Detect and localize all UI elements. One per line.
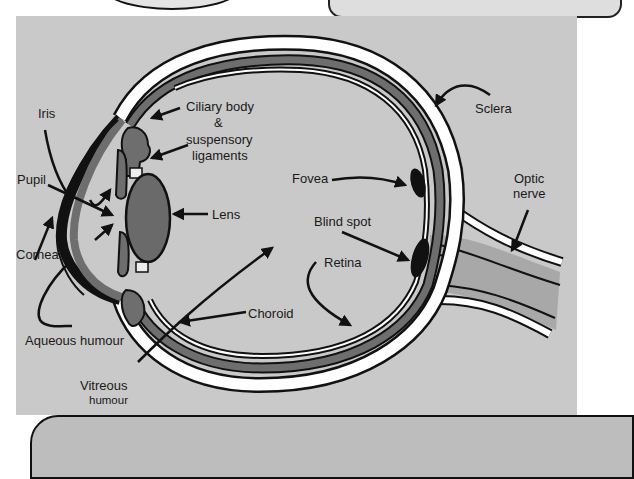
label-pupil: Pupil (17, 172, 46, 187)
label-suspensory: suspensory (186, 132, 253, 147)
label-iris: Iris (38, 106, 56, 121)
label-aqueous-humour: Aqueous humour (25, 333, 125, 348)
label-fovea: Fovea (292, 171, 329, 186)
label-nerve: nerve (513, 186, 546, 201)
label-lens: Lens (212, 207, 241, 222)
lens (126, 174, 170, 262)
label-ciliary-body: Ciliary body (186, 99, 254, 114)
cornea (57, 118, 124, 300)
label-ligaments: ligaments (192, 148, 248, 163)
label-choroid: Choroid (248, 306, 294, 321)
label-cornea: Cornea (16, 247, 59, 262)
label-vitreous-humour: humour (89, 394, 128, 406)
label-retina: Retina (324, 255, 362, 270)
label-sclera: Sclera (475, 101, 513, 116)
label-optic: Optic (514, 171, 545, 186)
label-vitreous: Vitreous (80, 378, 128, 393)
label-ampersand: & (214, 115, 223, 130)
label-blind-spot: Blind spot (314, 214, 371, 229)
